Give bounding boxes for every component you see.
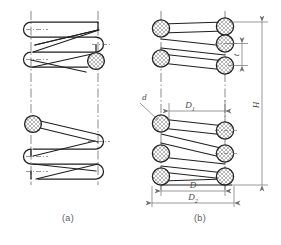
view-a-wire-section-lower <box>25 116 42 133</box>
drawing-sheet: d D1 t H D D2 (a) (b) <box>0 0 281 245</box>
view-a-wire-section-upper <box>88 53 105 70</box>
label-D: D <box>189 180 197 190</box>
caption-view-b: (b) <box>180 213 220 223</box>
spring-technical-drawing: d D1 t H D D2 <box>0 0 281 245</box>
caption-view-a: (a) <box>48 213 88 223</box>
label-d: d <box>142 92 147 102</box>
label-H: H <box>251 101 261 109</box>
